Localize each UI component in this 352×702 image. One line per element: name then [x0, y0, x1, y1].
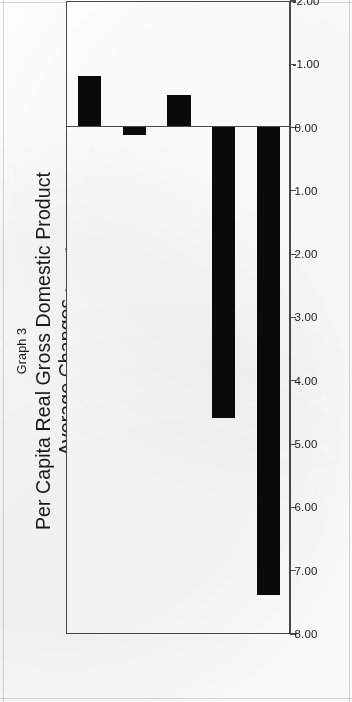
value-tick-label: 7.00 — [294, 565, 317, 577]
scanned-page: Graph 3 Per Capita Real Gross Domestic P… — [0, 0, 352, 702]
value-tick-label: 3.00 — [294, 312, 317, 324]
value-tick-label: 4.00 — [294, 375, 317, 387]
value-tick-label: 2.00 — [294, 248, 317, 260]
value-tick-label: 1.00 — [294, 185, 317, 197]
page-edge-left — [3, 0, 4, 702]
category-axis: 71/7576/8081/8586/9091 Years — [66, 1, 290, 634]
value-axis: 8.007.006.005.004.003.002.001.000.00-1.0… — [290, 1, 334, 634]
value-tick-label: -1.00 — [292, 58, 319, 70]
value-tick-label: -2.00 — [292, 0, 319, 7]
page-edge-bottom — [0, 698, 352, 699]
value-tick-label: 0.00 — [294, 122, 317, 134]
value-tick-label: 5.00 — [294, 438, 317, 450]
value-tick-label: 6.00 — [294, 501, 317, 513]
figure: Graph 3 Per Capita Real Gross Domestic P… — [11, 21, 341, 681]
rotated-figure-container: Graph 3 Per Capita Real Gross Domestic P… — [11, 21, 341, 681]
plot-area: 8.007.006.005.004.003.002.001.000.00-1.0… — [11, 21, 341, 681]
value-tick-label: 8.00 — [294, 628, 317, 640]
page-edge-right — [349, 0, 350, 702]
